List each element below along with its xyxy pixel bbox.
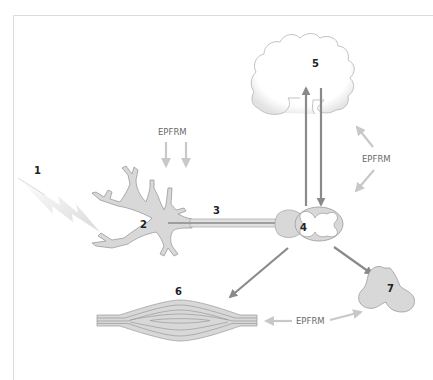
spinal-cord-section xyxy=(275,207,343,241)
label-3: 3 xyxy=(213,205,220,216)
brain xyxy=(251,34,354,115)
arrow-spinal-to-gland xyxy=(334,247,372,274)
stimulus-icon xyxy=(18,178,100,232)
label-5: 5 xyxy=(312,58,319,69)
epfrm-arrow-right-up xyxy=(357,127,373,147)
epfrm-arrow-right-down xyxy=(356,170,374,191)
epfrm-label-right: EPFRM xyxy=(362,154,391,164)
epfrm-label-top: EPFRM xyxy=(158,127,187,137)
label-4: 4 xyxy=(300,222,307,233)
label-7: 7 xyxy=(387,283,394,294)
label-6: 6 xyxy=(175,286,182,297)
reflex-arc-diagram: 1 EPFRM 2 3 4 5 EPFRM 6 xyxy=(0,0,433,380)
epfrm-arrow-bottom-right xyxy=(330,312,361,320)
muscle xyxy=(97,300,257,341)
label-1: 1 xyxy=(34,165,41,176)
epfrm-label-bottom: EPFRM xyxy=(296,316,325,326)
arrow-spinal-to-muscle xyxy=(230,248,288,297)
neuron-cell-body xyxy=(92,166,192,256)
label-2: 2 xyxy=(140,219,147,230)
